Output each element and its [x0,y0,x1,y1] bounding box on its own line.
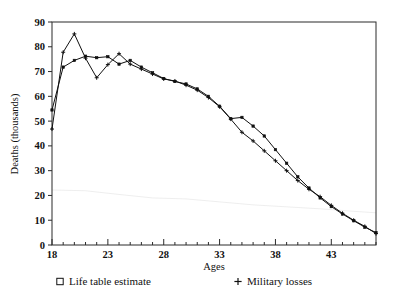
data-series-group [50,32,378,236]
legend-item-1: Life table estimate [57,275,151,287]
y-tick-label: 0 [40,240,45,251]
y-tick-label: 90 [35,17,46,28]
chart-figure: 182328333843 0102030405060708090 Ages De… [0,0,395,302]
data-point-marker-square [252,125,254,127]
y-tick-label: 50 [35,116,46,127]
data-point-marker-square [263,135,265,137]
deaths-by-age-line-chart: 182328333843 0102030405060708090 Ages De… [0,0,395,302]
legend-item-2: Military losses [234,275,312,287]
y-tick-label: 10 [35,215,46,226]
x-axis-tick-labels: 182328333843 [47,249,337,260]
data-point-marker-square [62,66,64,68]
x-tick-label: 43 [326,249,337,260]
data-point-marker-square [285,162,287,164]
data-point-marker-square [107,55,109,57]
data-point-marker-square [274,148,276,150]
x-axis-ticks [52,239,376,245]
x-tick-label: 18 [47,249,58,260]
series-1 [51,55,377,234]
legend-label: Life table estimate [69,275,151,287]
data-point-marker-square [129,59,131,61]
chart-legend: Life table estimateMilitary losses [57,275,312,287]
data-point-marker-square [51,109,53,111]
y-axis-title: Deaths (thousands) [9,93,21,174]
scan-showthrough-artifact [52,190,376,213]
data-point-marker-square [297,176,299,178]
data-point-marker-square [73,59,75,61]
data-point-marker-square [95,56,97,58]
data-point-marker-square [241,116,243,118]
y-tick-label: 30 [35,165,46,176]
y-tick-label: 40 [35,140,46,151]
y-tick-label: 60 [35,91,46,102]
x-tick-label: 28 [158,249,169,260]
y-tick-label: 20 [35,190,46,201]
x-axis-title: Ages [203,261,225,272]
plot-frame [52,22,376,245]
y-axis-ticks [48,22,52,245]
y-tick-label: 80 [35,41,46,52]
x-tick-label: 23 [103,249,114,260]
x-tick-label: 33 [214,249,225,260]
y-tick-label: 70 [35,66,46,77]
series-line [52,56,376,232]
legend-marker-plus-icon [234,278,241,285]
data-point-marker-square [118,63,120,65]
legend-label: Military losses [247,275,312,287]
x-tick-label: 38 [270,249,281,260]
y-axis-tick-labels: 0102030405060708090 [35,17,46,251]
data-point-marker-plus [50,127,54,131]
showthrough-line [52,190,376,213]
axes-frame [52,22,376,245]
legend-marker-square-icon [57,278,63,284]
